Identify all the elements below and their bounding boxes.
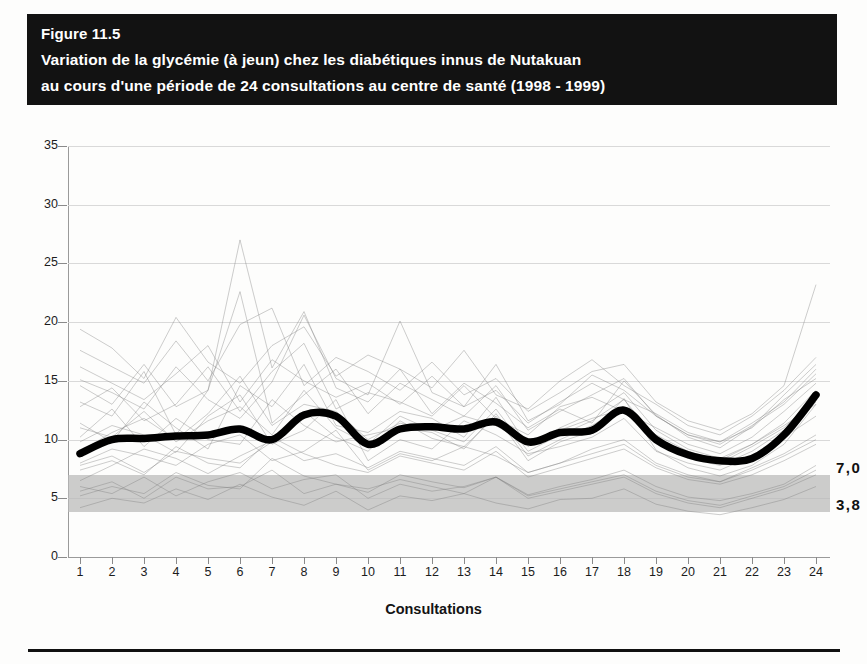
x-axis-label-3: 3 (129, 565, 159, 579)
x-axis-label-5: 5 (193, 565, 223, 579)
band-lower-value: 3,8 (836, 496, 861, 513)
x-tick-8 (304, 557, 305, 564)
mean-glycemia-path (80, 395, 816, 462)
x-axis-label-24: 24 (801, 565, 831, 579)
chart-container: 123456789101112131415161718192021222324 … (0, 105, 867, 664)
x-axis-label-23: 23 (769, 565, 799, 579)
x-axis-label-17: 17 (577, 565, 607, 579)
x-axis-label-13: 13 (449, 565, 479, 579)
figure-title-line-1: Variation de la glycémie (à jeun) chez l… (41, 47, 837, 73)
x-tick-3 (144, 557, 145, 564)
x-tick-4 (176, 557, 177, 564)
y-axis-label-15: 15 (10, 373, 58, 387)
y-axis-label-30: 30 (10, 197, 58, 211)
x-tick-23 (784, 557, 785, 564)
x-axis-label-21: 21 (705, 565, 735, 579)
x-axis-label-1: 1 (65, 565, 95, 579)
x-tick-24 (816, 557, 817, 564)
figure-number: Figure 11.5 (41, 21, 837, 47)
x-tick-21 (720, 557, 721, 564)
x-tick-14 (496, 557, 497, 564)
x-tick-10 (368, 557, 369, 564)
x-tick-15 (528, 557, 529, 564)
y-axis-label-20: 20 (10, 314, 58, 328)
y-tick-10 (58, 440, 67, 441)
y-axis-label-0: 0 (10, 549, 58, 563)
x-axis-label-12: 12 (417, 565, 447, 579)
x-tick-22 (752, 557, 753, 564)
page-divider-rule (28, 649, 840, 652)
x-axis-title: Consultations (0, 601, 867, 617)
x-tick-7 (272, 557, 273, 564)
x-tick-13 (464, 557, 465, 564)
x-axis-label-2: 2 (97, 565, 127, 579)
x-axis-label-4: 4 (161, 565, 191, 579)
y-axis-label-10: 10 (10, 432, 58, 446)
figure-title-banner: Figure 11.5 Variation de la glycémie (à … (27, 14, 837, 105)
x-axis-label-16: 16 (545, 565, 575, 579)
x-tick-11 (400, 557, 401, 564)
band-upper-value: 7,0 (836, 459, 861, 476)
y-tick-30 (58, 205, 67, 206)
x-axis-label-8: 8 (289, 565, 319, 579)
x-tick-16 (560, 557, 561, 564)
x-tick-1 (80, 557, 81, 564)
plot-area: 123456789101112131415161718192021222324 (68, 146, 830, 557)
x-axis-label-14: 14 (481, 565, 511, 579)
y-tick-35 (58, 146, 67, 147)
x-axis-label-6: 6 (225, 565, 255, 579)
x-tick-12 (432, 557, 433, 564)
y-axis-label-25: 25 (10, 255, 58, 269)
x-tick-5 (208, 557, 209, 564)
x-tick-17 (592, 557, 593, 564)
x-axis-label-20: 20 (673, 565, 703, 579)
y-tick-0 (58, 557, 67, 558)
x-tick-9 (336, 557, 337, 564)
x-axis-label-22: 22 (737, 565, 767, 579)
x-tick-2 (112, 557, 113, 564)
y-tick-25 (58, 263, 67, 264)
gridline-0 (68, 557, 830, 558)
x-axis-label-15: 15 (513, 565, 543, 579)
x-axis-label-18: 18 (609, 565, 639, 579)
x-tick-20 (688, 557, 689, 564)
x-axis-label-7: 7 (257, 565, 287, 579)
mean-glycemia-line (68, 146, 830, 557)
x-axis-label-10: 10 (353, 565, 383, 579)
x-axis-label-19: 19 (641, 565, 671, 579)
y-axis-label-35: 35 (10, 138, 58, 152)
y-axis-label-5: 5 (10, 490, 58, 504)
y-tick-20 (58, 322, 67, 323)
x-axis-label-9: 9 (321, 565, 351, 579)
x-axis-label-11: 11 (385, 565, 415, 579)
x-tick-19 (656, 557, 657, 564)
y-tick-15 (58, 381, 67, 382)
x-tick-6 (240, 557, 241, 564)
figure-title-line-2: au cours d'une période de 24 consultatio… (41, 73, 837, 99)
y-tick-5 (58, 498, 67, 499)
x-tick-18 (624, 557, 625, 564)
